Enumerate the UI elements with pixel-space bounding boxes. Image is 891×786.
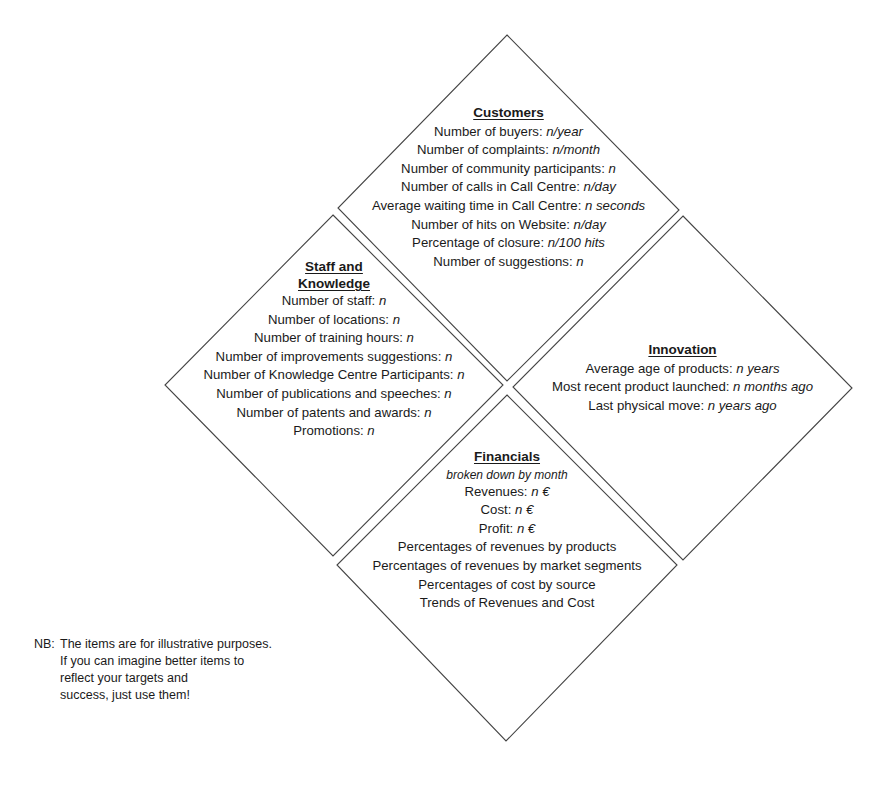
customers-item: Number of calls in Call Centre: n/day (338, 178, 679, 197)
innovation-item: Last physical move: n years ago (513, 397, 852, 416)
customers-item: Percentage of closure: n/100 hits (338, 234, 679, 253)
customers-item: Number of complaints: n/month (338, 141, 679, 160)
financials-item: Revenues: n € (337, 483, 677, 502)
innovation-item: Average age of products: n years (513, 360, 852, 379)
financials-section: Financials broken down by month Revenues… (337, 448, 677, 613)
customers-title: Customers (338, 104, 679, 123)
staff-item: Number of locations: n (165, 311, 503, 330)
nb-line: success, just use them! (56, 687, 190, 704)
nb-line: reflect your targets and (56, 670, 188, 687)
staff-title-line2: Knowledge (165, 275, 503, 292)
staff-item: Number of staff: n (165, 292, 503, 311)
customers-item: Number of community participants: n (338, 160, 679, 179)
nb-note: NB:The items are for illustrative purpos… (34, 636, 272, 704)
innovation-section: Innovation Average age of products: n ye… (513, 341, 852, 415)
staff-item: Number of improvements suggestions: n (165, 348, 503, 367)
staff-item: Promotions: n (165, 422, 503, 441)
innovation-title: Innovation (513, 341, 852, 360)
financials-title: Financials (337, 448, 677, 467)
customers-item: Average waiting time in Call Centre: n s… (338, 197, 679, 216)
nb-line: If you can imagine better items to (56, 653, 244, 670)
financials-subtitle: broken down by month (337, 467, 677, 483)
financials-item: Percentages of revenues by market segmen… (337, 557, 677, 576)
staff-item: Number of patents and awards: n (165, 404, 503, 423)
staff-item: Number of training hours: n (165, 329, 503, 348)
staff-item: Number of Knowledge Centre Participants:… (165, 366, 503, 385)
customers-section: Customers Number of buyers: n/year Numbe… (338, 104, 679, 271)
financials-item: Cost: n € (337, 501, 677, 520)
nb-line: The items are for illustrative purposes. (56, 636, 272, 653)
financials-item: Percentages of cost by source (337, 576, 677, 595)
financials-item: Percentages of revenues by products (337, 538, 677, 557)
innovation-item: Most recent product launched: n months a… (513, 378, 852, 397)
staff-section: Staff and Knowledge Number of staff: n N… (165, 258, 503, 441)
financials-item: Trends of Revenues and Cost (337, 594, 677, 613)
staff-item: Number of publications and speeches: n (165, 385, 503, 404)
customers-item: Number of buyers: n/year (338, 123, 679, 142)
financials-item: Profit: n € (337, 520, 677, 539)
staff-title-line1: Staff and (165, 258, 503, 275)
nb-prefix: NB: (34, 636, 56, 653)
customers-item: Number of hits on Website: n/day (338, 216, 679, 235)
